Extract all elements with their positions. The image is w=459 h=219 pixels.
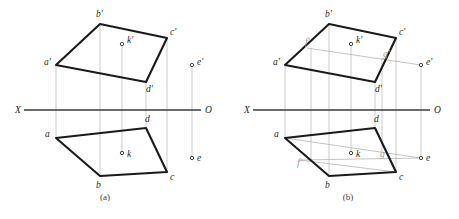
point-marker-k-prime (349, 42, 352, 45)
vertex-label-a: a (45, 129, 50, 139)
point-marker-e-prime (419, 63, 422, 66)
figure-caption: (b) (343, 192, 354, 202)
point-marker-k (120, 151, 123, 154)
construction-label-g: g (380, 149, 385, 159)
point-marker-e-prime (190, 63, 193, 66)
vertex-label-d-prime: d' (375, 84, 383, 94)
figure-caption: (a) (100, 192, 110, 202)
vertex-label-b-prime: b' (325, 9, 333, 19)
point-label-k-prime: k' (356, 35, 363, 45)
vertex-label-c-prime: c' (399, 27, 406, 37)
construction-label-g-prime: g' (383, 49, 391, 59)
point-marker-k-prime (120, 42, 123, 45)
vertex-label-b-prime: b' (96, 9, 104, 19)
vertex-label-b: b (325, 180, 330, 190)
axis-label-o: O (205, 105, 212, 115)
orthographic-projection-drawing: XOa'b'c'd'abcdk'ke'e(a) XOa'b'c'd'abcdk'… (0, 0, 459, 219)
point-label-e-prime: e' (426, 57, 433, 67)
point-label-k-prime: k' (127, 35, 134, 45)
point-marker-k (349, 151, 352, 154)
construction-label-f: f (297, 158, 301, 168)
axis-label-x: X (243, 105, 251, 115)
axis-label-x: X (14, 105, 22, 115)
point-label-k: k (356, 149, 361, 159)
front-view-polygon (56, 24, 167, 82)
point-marker-e (419, 156, 422, 159)
construction-line-front-horizontal-fg (307, 48, 421, 65)
vertex-label-c: c (399, 172, 404, 182)
vertex-label-d-prime: d' (146, 84, 154, 94)
vertex-label-d: d (145, 114, 150, 124)
axis-label-o: O (434, 105, 441, 115)
vertex-label-c-prime: c' (170, 27, 177, 37)
point-label-e: e (197, 153, 201, 163)
vertex-label-d: d (374, 114, 379, 124)
point-marker-e (190, 156, 193, 159)
vertex-label-a-prime: a' (44, 57, 52, 67)
point-label-k: k (127, 149, 132, 159)
vertex-label-c: c (170, 172, 175, 182)
point-label-e-prime: e' (197, 57, 204, 67)
top-view-polygon (56, 128, 167, 176)
vertex-label-b: b (96, 180, 101, 190)
point-label-e: e (426, 153, 430, 163)
drawing-canvas: XOa'b'c'd'abcdk'ke'e(a) XOa'b'c'd'abcdk'… (0, 0, 459, 219)
figure-a: XOa'b'c'd'abcdk'ke'e(a) (14, 9, 212, 202)
vertex-label-a-prime: a' (273, 57, 281, 67)
figure-b: XOa'b'c'd'abcdk'ke'ef'g'fg(b) (243, 9, 441, 202)
vertex-label-a: a (274, 129, 279, 139)
